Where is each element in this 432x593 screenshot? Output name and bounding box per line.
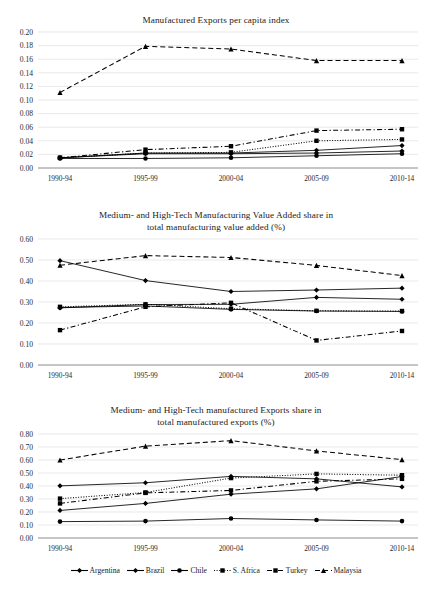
legend-label: Malaysia	[334, 566, 362, 575]
data-point-marker	[57, 258, 62, 263]
chart-title-1-text: Manufactured Exports per capita index	[142, 15, 289, 25]
data-point-marker	[400, 151, 405, 156]
y-axis-tick-label: 0.00	[20, 164, 33, 173]
chart-panel-manufactured-exports-per-capita: Manufactured Exports per capita index 0.…	[0, 0, 432, 195]
data-point-marker	[314, 153, 319, 158]
data-point-marker	[143, 491, 147, 495]
data-point-marker	[229, 476, 233, 480]
chart-title-2: Medium- and High-Tech Manufacturing Valu…	[0, 195, 432, 233]
data-point-marker	[229, 156, 234, 161]
chile-legend-key	[171, 566, 188, 575]
data-point-marker	[57, 483, 62, 488]
gridlines	[38, 434, 418, 538]
data-point-marker	[400, 519, 405, 524]
chart-legend: ArgentinaBrazilChileS. AfricaTurkeyMalay…	[0, 566, 432, 575]
y-axis-tick-label: 0.40	[20, 277, 33, 286]
y-axis-tick-label: 0.10	[20, 340, 33, 349]
chart-panel-mht-manufacturing-value-added: Medium- and High-Tech Manufacturing Valu…	[0, 195, 432, 392]
data-point-marker	[314, 518, 319, 523]
chart-title-2-line2: total manufacturing value added (%)	[40, 221, 392, 233]
data-point-marker	[399, 273, 404, 278]
series-malaysia	[57, 253, 404, 278]
y-axis-tick-label: 0.50	[20, 469, 33, 478]
x-axis-tick-label: 1995-99	[133, 174, 158, 183]
y-axis-tick-label: 0.08	[20, 109, 33, 118]
data-point-marker	[229, 488, 233, 492]
data-point-marker	[228, 289, 233, 294]
data-point-marker	[58, 519, 63, 524]
series-argentina	[57, 258, 404, 294]
data-point-marker	[229, 516, 234, 521]
data-point-marker	[314, 338, 318, 342]
brazil-legend-key	[127, 566, 144, 575]
legend-item-turkey[interactable]: Turkey	[267, 566, 308, 575]
series-group	[57, 253, 404, 343]
y-axis-tick-label: 0.00	[20, 534, 33, 543]
y-axis-tick-label: 0.04	[20, 137, 33, 146]
legend-item-s-africa[interactable]: S. Africa	[214, 566, 260, 575]
data-point-marker	[314, 148, 319, 153]
data-point-marker	[229, 144, 233, 148]
series-turkey	[58, 477, 404, 506]
x-axis-tick-label: 1995-99	[133, 544, 158, 553]
chart-title-3-line2: total manufactured exports (%)	[40, 416, 392, 428]
series-malaysia	[57, 438, 404, 463]
legend-item-brazil[interactable]: Brazil	[127, 566, 165, 575]
data-point-marker	[229, 150, 233, 154]
chart-title-3: Medium- and High-Tech manufactured Expor…	[0, 392, 432, 428]
series-line	[60, 46, 402, 92]
data-point-marker	[399, 143, 404, 148]
y-axis-tick-label: 0.16	[20, 55, 33, 64]
y-axis-tick-label: 0.10	[20, 96, 33, 105]
y-axis-tick-label: 0.40	[20, 482, 33, 491]
data-point-marker	[399, 286, 404, 291]
x-axis-tick-label: 2010-14	[390, 174, 415, 183]
series-line	[60, 261, 402, 292]
legend-label: Chile	[190, 566, 206, 575]
line-chart-1: 0.000.020.040.060.080.100.120.140.160.18…	[0, 26, 432, 194]
y-axis-tick-label: 0.50	[20, 256, 33, 265]
data-point-marker	[143, 519, 148, 524]
legend-label: Argentina	[90, 566, 120, 575]
series-chile	[58, 516, 405, 524]
data-point-marker	[314, 295, 319, 300]
chart-panel-mht-manufactured-exports: Medium- and High-Tech manufactured Expor…	[0, 392, 432, 593]
line-chart-2: 0.000.100.200.300.400.500.601990-941995-…	[0, 233, 432, 391]
y-axis-tick-label: 0.30	[20, 495, 33, 504]
y-axis-tick-label: 0.70	[20, 443, 33, 452]
chart-title-3-line1: Medium- and High-Tech manufactured Expor…	[40, 404, 392, 416]
data-point-marker	[314, 479, 318, 483]
data-point-marker	[58, 496, 62, 500]
data-point-marker	[143, 278, 148, 283]
x-axis-tick-label: 2000-04	[219, 174, 244, 183]
x-axis-tick-label: 2005-09	[304, 544, 329, 553]
plot-area-1: 0.000.020.040.060.080.100.120.140.160.18…	[0, 26, 432, 194]
data-point-marker	[229, 307, 233, 311]
data-point-marker	[58, 305, 62, 309]
data-point-marker	[229, 301, 233, 305]
y-axis-tick-label: 0.02	[20, 150, 33, 159]
data-point-marker	[400, 309, 404, 313]
legend-marker	[273, 568, 277, 572]
legend-item-chile[interactable]: Chile	[171, 566, 206, 575]
x-axis-tick-label: 1990-94	[48, 174, 73, 183]
legend-marker	[220, 568, 224, 572]
figure-page: Manufactured Exports per capita index 0.…	[0, 0, 432, 593]
series-group	[57, 438, 404, 524]
series-line	[60, 441, 402, 460]
legend-label: Turkey	[286, 566, 308, 575]
legend-label: S. Africa	[233, 566, 260, 575]
turkey-legend-key	[267, 566, 284, 575]
legend-item-argentina[interactable]: Argentina	[71, 566, 120, 575]
data-point-marker	[314, 139, 318, 143]
data-point-marker	[314, 486, 319, 491]
x-axis-tick-label: 1995-99	[133, 371, 158, 380]
data-point-marker	[314, 309, 318, 313]
data-point-marker	[314, 472, 318, 476]
legend-marker	[77, 568, 82, 573]
legend-item-malaysia[interactable]: Malaysia	[315, 566, 362, 575]
y-axis-tick-label: 0.14	[20, 69, 33, 78]
data-point-marker	[399, 484, 404, 489]
data-point-marker	[58, 156, 62, 160]
line-chart-3: 0.000.100.200.300.400.500.600.700.801990…	[0, 428, 432, 564]
